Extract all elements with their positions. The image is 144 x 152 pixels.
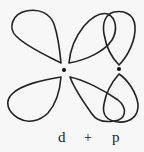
p-lobe-upper bbox=[103, 12, 135, 65]
d-lobe-lower-left bbox=[8, 77, 61, 121]
p-lobe-lower bbox=[104, 74, 139, 122]
label-d: d bbox=[58, 130, 66, 145]
d-nucleus-dot bbox=[62, 68, 66, 72]
d-lobe-lower-right bbox=[70, 77, 124, 122]
d-lobe-upper-right bbox=[69, 14, 115, 63]
label-p: p bbox=[112, 130, 120, 145]
p-nucleus-dot bbox=[117, 67, 121, 71]
orbital-diagram bbox=[0, 0, 144, 152]
d-lobe-upper-left bbox=[12, 10, 61, 63]
label-plus: + bbox=[84, 131, 92, 145]
